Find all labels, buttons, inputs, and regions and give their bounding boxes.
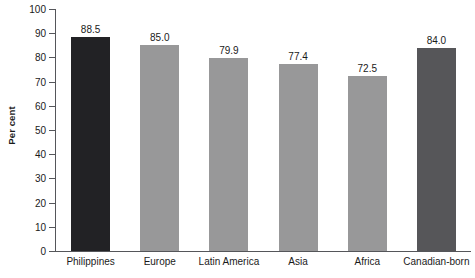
y-axis-tick-label: 0 <box>6 246 46 257</box>
bar[interactable] <box>279 64 318 251</box>
y-axis-tick-label: 50 <box>6 125 46 136</box>
y-axis-tick <box>49 106 55 107</box>
bar-group: 85.0 <box>140 9 179 251</box>
y-axis-tick <box>49 154 55 155</box>
x-axis-category-label: Asia <box>288 256 307 267</box>
bar-group: 77.4 <box>279 9 318 251</box>
y-axis-tick-label: 10 <box>6 221 46 232</box>
y-axis-tick <box>49 203 55 204</box>
y-axis-tick <box>49 251 55 252</box>
bar[interactable] <box>417 48 456 251</box>
x-axis-category-label: Europe <box>144 256 176 267</box>
y-axis-tick <box>49 57 55 58</box>
bar-value-label: 88.5 <box>81 24 100 35</box>
plot-area: 88.585.079.977.472.584.0 <box>56 9 471 251</box>
bar-group: 84.0 <box>417 9 456 251</box>
bar-value-label: 72.5 <box>358 63 377 74</box>
y-axis-tick-label: 20 <box>6 197 46 208</box>
bar-group: 72.5 <box>348 9 387 251</box>
y-axis-tick <box>49 33 55 34</box>
y-axis-tick <box>49 9 55 10</box>
bar-value-label: 85.0 <box>150 32 169 43</box>
x-axis-category-label: Latin America <box>199 256 260 267</box>
x-axis-category-label: Canadian-born <box>403 256 469 267</box>
bar-value-label: 84.0 <box>427 35 446 46</box>
bar-chart: Per cent 1009080706050403020100 88.585.0… <box>0 0 475 278</box>
y-axis-tick-label: 80 <box>6 52 46 63</box>
y-axis-tick-label: 90 <box>6 28 46 39</box>
x-axis-line <box>55 251 471 252</box>
bar-value-label: 79.9 <box>219 45 238 56</box>
x-axis-category-label: Africa <box>354 256 380 267</box>
y-axis-tick <box>49 130 55 131</box>
y-axis-tick-label: 30 <box>6 173 46 184</box>
y-axis-tick-label: 40 <box>6 149 46 160</box>
bar[interactable] <box>209 58 248 251</box>
bar[interactable] <box>348 76 387 251</box>
bar[interactable] <box>71 37 110 251</box>
y-axis-tick <box>49 227 55 228</box>
y-axis-tick <box>49 178 55 179</box>
bar-group: 88.5 <box>71 9 110 251</box>
y-axis-tick <box>49 82 55 83</box>
y-axis-tick-label: 60 <box>6 100 46 111</box>
x-axis-category-label: Philippines <box>66 256 114 267</box>
bar[interactable] <box>140 45 179 251</box>
bar-group: 79.9 <box>209 9 248 251</box>
y-axis-tick-label: 100 <box>6 4 46 15</box>
y-axis-tick-label: 70 <box>6 76 46 87</box>
bar-value-label: 77.4 <box>288 51 307 62</box>
